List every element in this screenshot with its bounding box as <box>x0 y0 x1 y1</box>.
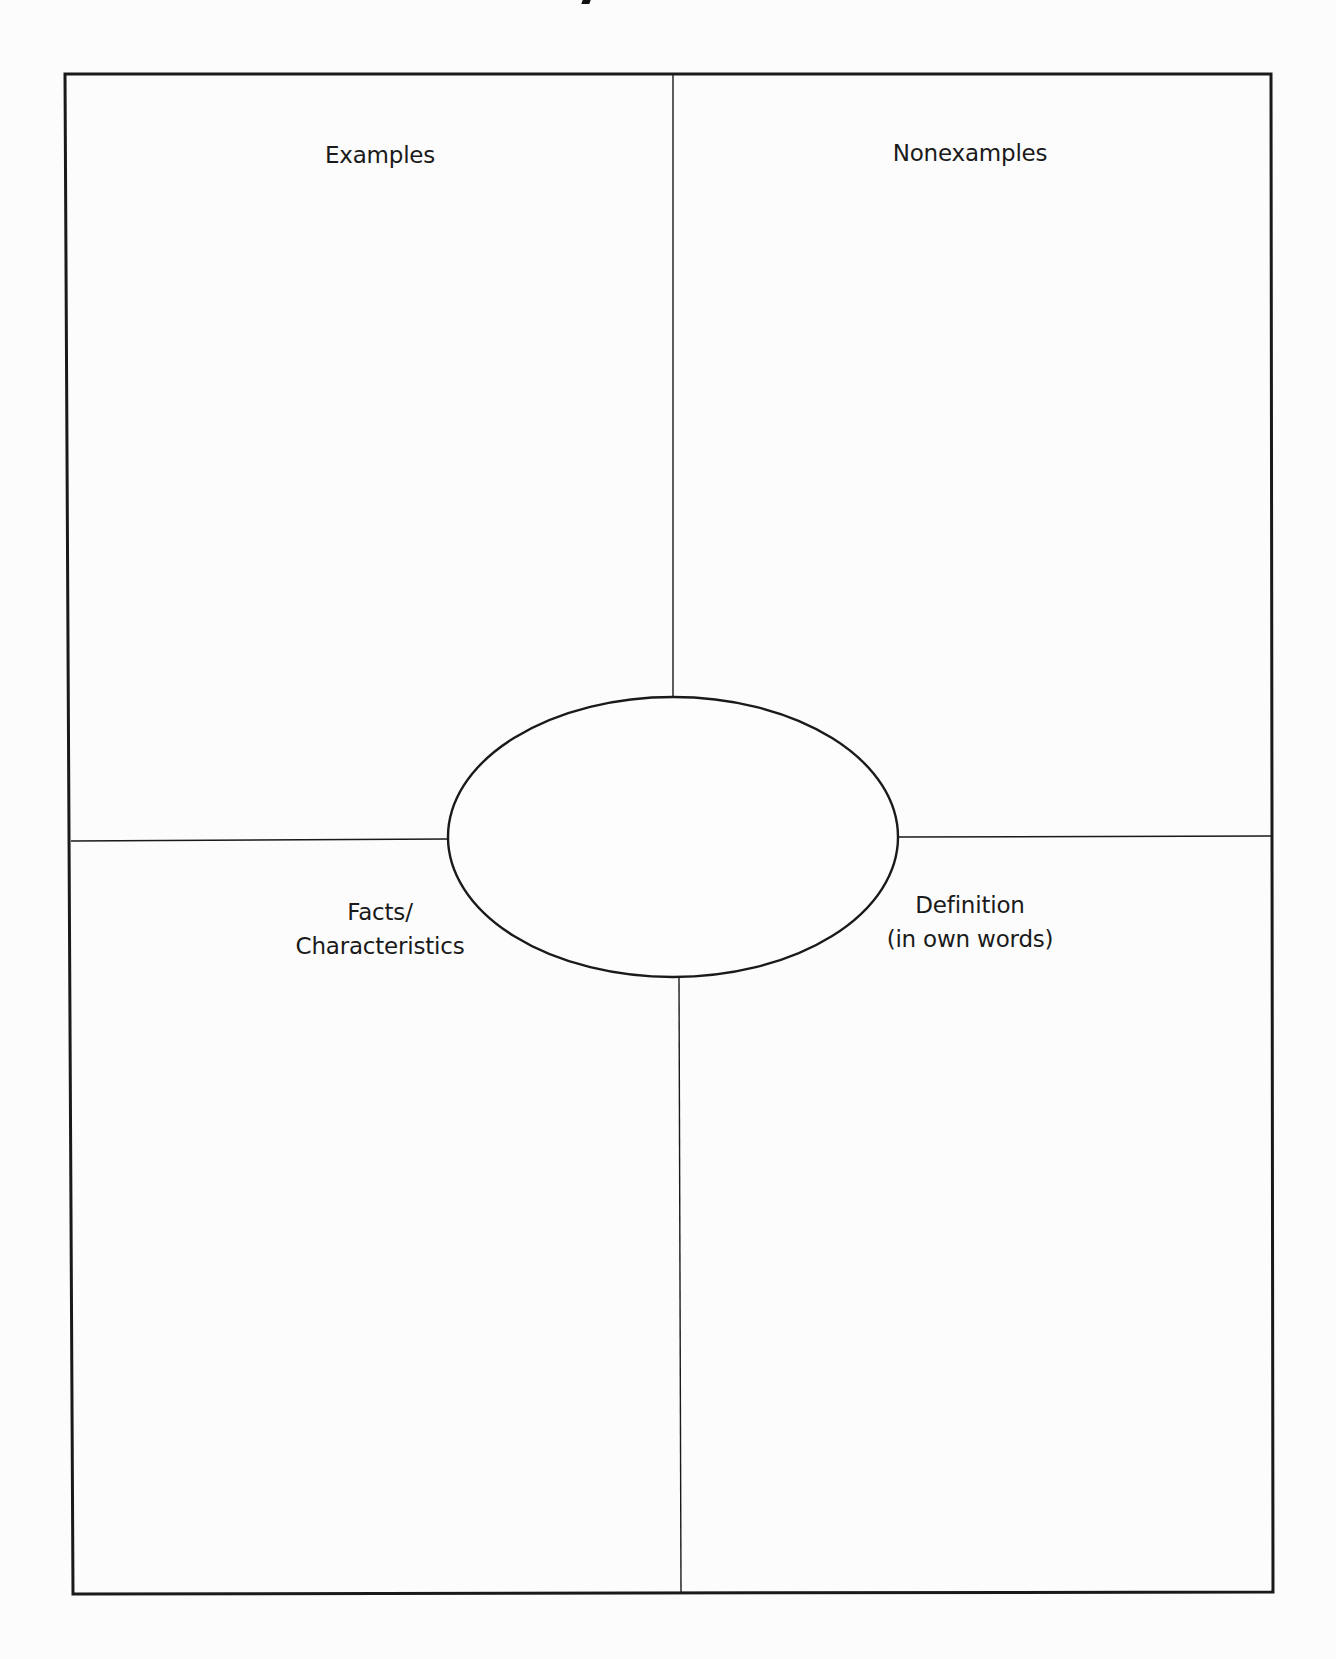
definition-label: Definition (in own words) <box>860 888 1080 956</box>
facts-characteristics-label: Facts/ Characteristics <box>260 895 500 963</box>
examples-label: Examples <box>270 138 490 172</box>
horizontal-divider-left <box>71 839 448 841</box>
facts-label-line2: Characteristics <box>260 929 500 963</box>
quadrant-examples[interactable] <box>67 76 671 839</box>
vertical-divider-bottom <box>679 977 681 1592</box>
quadrant-nonexamples[interactable] <box>675 76 1269 834</box>
horizontal-divider-right <box>898 836 1271 837</box>
definition-label-line1: Definition <box>860 888 1080 922</box>
nonexamples-label: Nonexamples <box>860 136 1080 170</box>
facts-label-line1: Facts/ <box>260 895 500 929</box>
definition-label-line2: (in own words) <box>860 922 1080 956</box>
